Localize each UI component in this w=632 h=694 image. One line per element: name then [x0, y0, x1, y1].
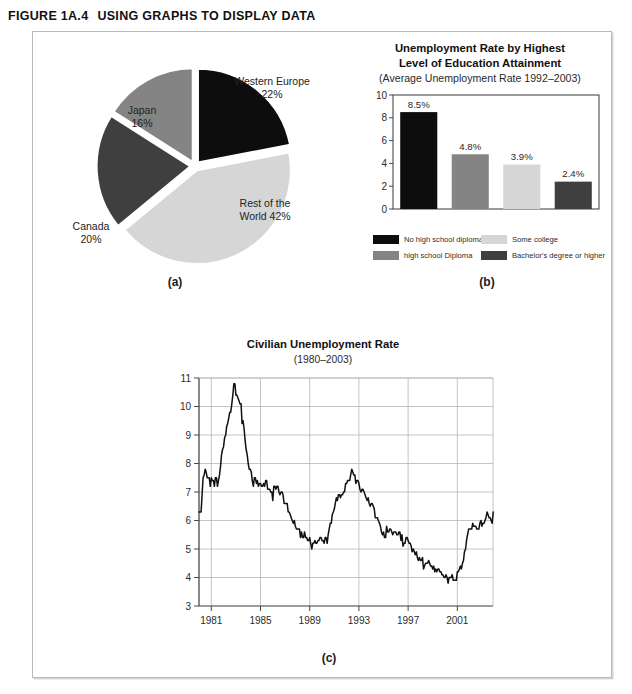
- figure-header: FIGURE 1A.4USING GRAPHS TO DISPLAY DATA: [8, 9, 316, 23]
- line-ytick-label-8: 8: [185, 458, 191, 469]
- legend-label-3: Bachelor's degree or higher: [512, 251, 605, 260]
- bar-ytick-label-8: 8: [381, 112, 387, 123]
- legend-swatch-black: [373, 235, 399, 244]
- figure-frame: Western Europe 22% Japan 16% Canada 20% …: [32, 31, 612, 678]
- bar-ytick-label-4: 4: [381, 158, 387, 169]
- bar-ytick-label-6: 6: [381, 135, 387, 146]
- bar-ytick-label-10: 10: [376, 90, 388, 101]
- line-ytick-label-3: 3: [185, 601, 191, 612]
- bar-value-label-0: 8.5%: [408, 99, 430, 110]
- bar-title-line1: Unemployment Rate by Highest: [395, 42, 565, 54]
- line-chart-title: Civilian Unemployment Rate: [123, 338, 523, 350]
- pie-label-rest-of-world: Rest of the World 42%: [221, 197, 309, 223]
- bar-chart-legend: No high school diploma Some college high…: [373, 235, 613, 260]
- panel-caption-c: (c): [305, 651, 353, 665]
- line-xtick-label-1989: 1989: [299, 615, 322, 626]
- legend-swatch-light-gray: [481, 235, 507, 244]
- panel-caption-a: (a): [151, 275, 199, 289]
- line-ytick-label-6: 6: [185, 515, 191, 526]
- pie-label-western-europe: Western Europe 22%: [218, 75, 326, 101]
- legend-label-2: high school Diploma: [404, 251, 472, 260]
- line-xtick-label-1997: 1997: [397, 615, 420, 626]
- bar-chart-title: Unemployment Rate by Highest Level of Ed…: [355, 41, 605, 70]
- figure-number: FIGURE 1A.4: [8, 9, 88, 23]
- bar-title-line2: Level of Education Attainment: [399, 57, 561, 69]
- line-xtick-label-2001: 2001: [446, 615, 469, 626]
- legend-label-1: Some college: [512, 235, 558, 244]
- legend-item-some-college: Some college: [481, 235, 613, 244]
- panel-caption-b: (b): [463, 275, 511, 289]
- line-ytick-label-4: 4: [185, 572, 191, 583]
- legend-item-high-school-diploma: high school Diploma: [373, 251, 481, 260]
- legend-swatch-medium-gray: [373, 251, 399, 260]
- legend-swatch-dark-gray: [481, 251, 507, 260]
- legend-label-0: No high school diploma: [404, 235, 483, 244]
- line-ytick-label-10: 10: [180, 401, 192, 412]
- legend-item-no-high-school-diploma: No high school diploma: [373, 235, 481, 244]
- legend-item-bachelors-degree: Bachelor's degree or higher: [481, 251, 613, 260]
- line-ytick-label-9: 9: [185, 430, 191, 441]
- bar-chart-subtitle: (Average Unemployment Rate 1992–2003): [347, 72, 613, 84]
- bar-ytick-label-0: 0: [381, 204, 387, 215]
- line-chart-panel: Civilian Unemployment Rate (1980–2003) 3…: [33, 330, 613, 670]
- line-ytick-label-11: 11: [181, 373, 192, 384]
- line-xtick-label-1981: 1981: [200, 615, 223, 626]
- bar-0: [400, 112, 437, 209]
- bar-value-label-1: 4.8%: [459, 141, 481, 152]
- pie-label-japan: Japan 16%: [111, 104, 173, 130]
- bar-value-label-3: 2.4%: [562, 168, 584, 179]
- bar-ytick-label-2: 2: [381, 181, 387, 192]
- bar-value-label-2: 3.9%: [511, 151, 533, 162]
- line-xtick-label-1985: 1985: [249, 615, 272, 626]
- bar-chart-svg: 02468108.5%4.8%3.9%2.4%: [367, 87, 603, 232]
- figure-title: USING GRAPHS TO DISPLAY DATA: [97, 9, 315, 23]
- bar-3: [555, 182, 592, 209]
- line-xtick-label-1993: 1993: [348, 615, 371, 626]
- line-ytick-label-5: 5: [185, 544, 191, 555]
- line-chart-subtitle: (1980–2003): [123, 354, 523, 365]
- pie-label-canada: Canada 20%: [55, 220, 127, 246]
- line-ytick-label-7: 7: [185, 487, 191, 498]
- bar-2: [503, 165, 540, 209]
- line-series-unemployment-rate: [199, 384, 493, 584]
- line-chart-svg: 34567891011198119851989199319972001: [151, 368, 501, 650]
- bar-1: [452, 154, 489, 209]
